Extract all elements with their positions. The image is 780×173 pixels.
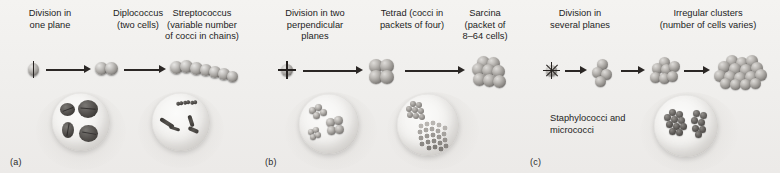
arrow-3-c xyxy=(684,66,710,75)
caption-streptococcus: Streptococcus (variable number of cocci … xyxy=(148,8,256,43)
inset-streptococci-micrograph xyxy=(152,93,210,151)
streptococcus-chain xyxy=(169,125,181,132)
streptococcus-chain xyxy=(188,126,200,134)
caption-sarcina: Sarcina (packet of 8–64 cells) xyxy=(451,8,519,43)
division-plane-line xyxy=(278,69,296,70)
arrow-2-a xyxy=(124,65,166,74)
sarcina-packet-large xyxy=(417,120,451,152)
arrow-2-c xyxy=(621,66,645,75)
panel-letter-a: (a) xyxy=(10,157,22,167)
coccus xyxy=(595,76,606,87)
panel-two-perpendicular-planes: Division in two perpendicular planes Tet… xyxy=(255,0,520,173)
panel-letter-c: (c) xyxy=(530,157,541,167)
inset-staphylococci-micrograph xyxy=(654,95,718,157)
stage-sarcina-b xyxy=(471,56,505,90)
streptococcus-chain xyxy=(187,115,195,128)
division-plane-line xyxy=(33,61,34,78)
stage-medium-cluster-c xyxy=(650,57,680,87)
label-staphylococci-micrococci: Staphylococci and micrococci xyxy=(550,113,660,136)
stage-small-cluster-c xyxy=(592,59,616,87)
caption-tetrad: Tetrad (cocci in packets of four) xyxy=(365,8,459,31)
schematic-row-c xyxy=(520,55,780,95)
caption-division-one-plane: Division in one plane xyxy=(2,8,98,31)
inset-sarcina-micrograph xyxy=(397,94,459,156)
stage-tetrad-b xyxy=(369,59,399,89)
schematic-row-a xyxy=(0,55,255,95)
coccus xyxy=(105,62,118,75)
coccus xyxy=(493,75,506,88)
caption-division-two-planes: Division in two perpendicular planes xyxy=(263,8,367,43)
staphylococcus-cluster xyxy=(690,110,708,136)
staphylococcus-cluster xyxy=(663,109,687,135)
caption-division-several-planes: Division in several planes xyxy=(528,8,632,31)
arrow-1-b xyxy=(303,66,363,75)
inset-diplococci-micrograph xyxy=(52,93,110,151)
coccus xyxy=(750,78,761,89)
caption-irregular-clusters: Irregular clusters (number of cells vari… xyxy=(638,8,778,31)
arrow-1-a xyxy=(46,65,91,74)
diplococcus-cell xyxy=(62,122,74,138)
coccus xyxy=(227,71,238,82)
diplococcus-cell xyxy=(60,103,75,116)
coccus xyxy=(380,70,394,84)
stage-large-irregular-cluster-c xyxy=(714,55,768,91)
arrow-2-b xyxy=(405,66,465,75)
diplococcus-cell xyxy=(78,100,98,118)
panel-one-plane: Division in one plane Diplococcus (two c… xyxy=(0,0,255,173)
schematic-row-b xyxy=(255,55,520,95)
panel-letter-b: (b) xyxy=(265,157,277,167)
coccus xyxy=(667,71,678,82)
diplococcus-cell xyxy=(79,125,98,142)
panel-several-planes: Division in several planes Irregular clu… xyxy=(520,0,780,173)
inset-tetrad-micrograph xyxy=(299,94,359,154)
bacterial-division-figure: Division in one plane Diplococcus (two c… xyxy=(0,0,780,173)
sarcina-packet-small xyxy=(405,101,425,121)
arrow-1-c xyxy=(565,66,587,75)
